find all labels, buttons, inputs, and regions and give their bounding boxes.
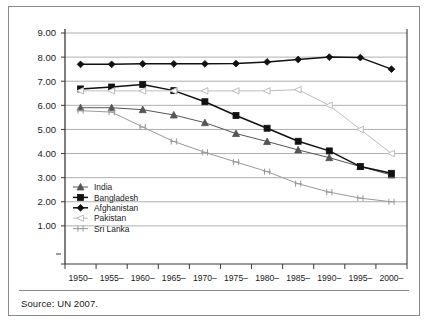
- svg-text:3.00: 3.00: [38, 172, 57, 183]
- legend-label-afghanistan: Afghanistan: [94, 203, 139, 213]
- svg-text:1965–: 1965–: [162, 273, 186, 283]
- svg-text:2000–: 2000–: [380, 273, 404, 283]
- svg-text:1975–: 1975–: [224, 273, 248, 283]
- svg-text:4.00: 4.00: [38, 148, 57, 159]
- svg-text:1990–: 1990–: [317, 273, 341, 283]
- svg-text:1980–: 1980–: [255, 273, 279, 283]
- legend-label-bangladesh: Bangladesh: [94, 193, 139, 203]
- svg-text:1995–: 1995–: [348, 273, 372, 283]
- legend-label-sri-lanka: Sri Lanka: [94, 224, 130, 234]
- x-axis-tick-labels: 1950–19551955–19601960–19651965–19701970…: [65, 264, 407, 284]
- svg-text:9.00: 9.00: [38, 27, 57, 38]
- figure-container: 1.002.003.004.005.006.007.008.009.00 195…: [8, 6, 420, 316]
- svg-text:1985–: 1985–: [286, 273, 310, 283]
- svg-text:1960–: 1960–: [131, 273, 155, 283]
- svg-text:1.00: 1.00: [38, 220, 57, 231]
- legend-label-pakistan: Pakistan: [94, 213, 126, 223]
- svg-text:5.00: 5.00: [38, 124, 57, 135]
- svg-text:8.00: 8.00: [38, 52, 57, 63]
- svg-text:1970–: 1970–: [193, 273, 217, 283]
- svg-text:7.00: 7.00: [38, 76, 57, 87]
- svg-text:1955–: 1955–: [100, 273, 124, 283]
- chart-plot-area: 1.002.003.004.005.006.007.008.009.00 195…: [9, 7, 419, 284]
- chart-legend: IndiaBangladeshAfghanistanPakistanSri La…: [73, 182, 139, 234]
- source-note: Source: UN 2007.: [21, 298, 98, 309]
- y-axis-tick-labels: 1.002.003.004.005.006.007.008.009.00: [38, 27, 66, 264]
- legend-label-india: India: [94, 182, 113, 192]
- line-chart: 1.002.003.004.005.006.007.008.009.00 195…: [9, 7, 419, 284]
- svg-text:6.00: 6.00: [38, 100, 57, 111]
- svg-text:2.00: 2.00: [38, 196, 57, 207]
- svg-text:1950–: 1950–: [69, 273, 93, 283]
- source-divider: [19, 290, 409, 291]
